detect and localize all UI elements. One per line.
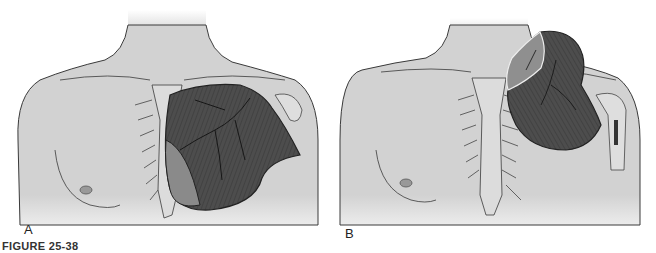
panel-label-b: B	[345, 226, 354, 241]
nipple	[80, 186, 92, 194]
panel-a	[0, 0, 326, 236]
nipple	[400, 179, 412, 187]
chest-illustration-a	[0, 0, 326, 236]
chest-illustration-b	[326, 0, 652, 236]
figure-caption: FIGURE 25-38	[2, 240, 78, 252]
panel-b	[326, 0, 652, 236]
panel-label-a: A	[24, 222, 33, 237]
pectoralis-insertion-mark	[614, 120, 618, 145]
